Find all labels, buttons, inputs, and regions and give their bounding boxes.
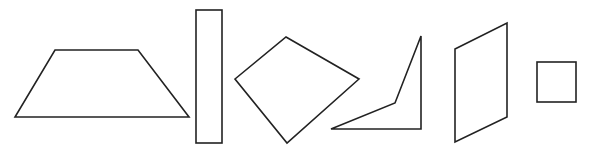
parallelogram [455, 23, 507, 142]
trapezoid [15, 50, 189, 117]
kite [235, 37, 359, 143]
concave-quadrilateral [331, 36, 421, 129]
square [537, 62, 576, 102]
shapes-diagram [0, 0, 590, 156]
tall-rectangle [196, 10, 222, 143]
